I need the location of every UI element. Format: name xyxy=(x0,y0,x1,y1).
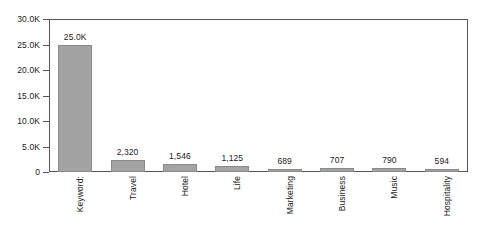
bar-value-label: 1,546 xyxy=(169,151,191,161)
bar-group[interactable]: 25.0K xyxy=(58,19,92,172)
y-axis-tick-label: 5.0K xyxy=(22,142,40,152)
x-axis-tick-label: Life xyxy=(232,176,242,190)
bar-group[interactable]: 790 xyxy=(372,19,406,172)
x-axis-tick-label: Music xyxy=(389,176,399,199)
bar-chart: 05.0K10.0K15.0K20.0K25.0K30.0K 25.0K2,32… xyxy=(0,0,488,235)
y-axis-tick-label: 15.0K xyxy=(17,91,40,101)
x-axis-tick-label: Travel xyxy=(128,176,138,200)
y-axis-tick-label: 25.0K xyxy=(17,40,40,50)
bar-group[interactable]: 689 xyxy=(268,19,302,172)
x-axis-tick-label: Keyword: xyxy=(75,176,85,212)
bar[interactable] xyxy=(320,168,354,172)
y-axis-tick-label: 20.0K xyxy=(17,65,40,75)
bar-group[interactable]: 594 xyxy=(425,19,459,172)
bar[interactable] xyxy=(268,169,302,173)
x-axis-tick-label: Hotel xyxy=(180,176,190,196)
y-axis-tick-mark xyxy=(43,172,49,173)
x-axis-tick-label: Hospitality xyxy=(442,176,452,216)
bar-group[interactable]: 1,546 xyxy=(163,19,197,172)
bar-value-label: 594 xyxy=(435,156,449,166)
bar-group[interactable]: 707 xyxy=(320,19,354,172)
y-axis-tick-label: 30.0K xyxy=(17,14,40,24)
bar[interactable] xyxy=(215,166,249,172)
bar[interactable] xyxy=(111,160,145,172)
bar[interactable] xyxy=(58,45,92,173)
bar-group[interactable]: 2,320 xyxy=(111,19,145,172)
bar-value-label: 25.0K xyxy=(64,32,87,42)
x-axis-tick-label: Marketing xyxy=(285,176,295,214)
bar[interactable] xyxy=(163,164,197,172)
bars-layer: 25.0K2,3201,5461,125689707790594 xyxy=(49,19,468,172)
bar[interactable] xyxy=(372,168,406,172)
bar[interactable] xyxy=(425,169,459,172)
bar-value-label: 707 xyxy=(330,155,344,165)
bar-value-label: 2,320 xyxy=(117,147,139,157)
x-axis: Keyword:TravelHotelLifeMarketingBusiness… xyxy=(49,176,468,235)
bar-value-label: 790 xyxy=(382,155,396,165)
bar-group[interactable]: 1,125 xyxy=(215,19,249,172)
x-axis-tick-label: Business xyxy=(337,176,347,211)
bar-value-label: 689 xyxy=(277,156,291,166)
y-axis-tick-label: 0 xyxy=(35,167,40,177)
y-axis: 05.0K10.0K15.0K20.0K25.0K30.0K xyxy=(0,0,49,235)
bar-value-label: 1,125 xyxy=(221,153,243,163)
y-axis-tick-label: 10.0K xyxy=(17,116,40,126)
